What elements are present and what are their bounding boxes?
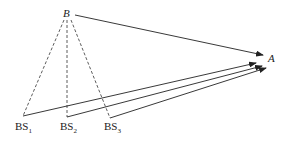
bs3-text: BS [104,120,117,132]
edge-bs1-a [23,63,256,116]
node-b-label: B [63,8,70,19]
node-bs1-label: BS1 [15,121,32,132]
bs1-text: BS [15,120,28,132]
node-bs3-label: BS3 [104,121,121,132]
diagram-canvas: B A BS1 BS2 BS3 [0,0,283,147]
bs3-subscript: 3 [117,127,121,135]
node-a-label: A [268,53,275,64]
bs1-subscript: 1 [28,127,32,135]
edge-b-bs1 [23,20,64,116]
edge-bs2-a [67,66,262,117]
bs2-text: BS [60,120,73,132]
node-bs2-label: BS2 [60,121,77,132]
diagram-edges [0,0,283,147]
edge-b-a [75,15,263,55]
edge-bs3-a [110,68,266,118]
bs2-subscript: 2 [73,127,77,135]
